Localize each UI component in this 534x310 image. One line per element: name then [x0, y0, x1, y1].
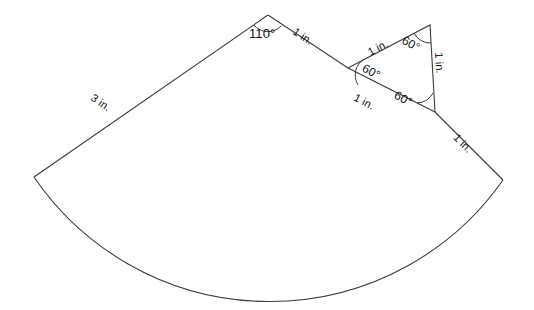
- figure-canvas: [0, 0, 534, 310]
- angle-label-110: 110°: [249, 27, 275, 40]
- geometry-figure: 110° 3 in. 1 in. 1 in. 60° 60° 1 in. 1 i…: [0, 0, 534, 310]
- angle-arc-60-bottom: [417, 93, 433, 103]
- side-label-1in-triangle-right: 1 in.: [433, 52, 445, 74]
